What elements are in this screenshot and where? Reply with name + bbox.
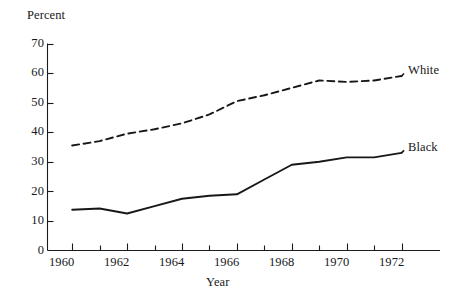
axes <box>48 44 441 251</box>
data-series <box>72 76 401 214</box>
leader-line-black <box>402 150 404 153</box>
series-path-black <box>72 153 401 214</box>
chart-screen: Percent 70 60 50 40 30 20 10 0 1960 1962… <box>0 0 457 299</box>
series-leader-lines <box>402 74 404 153</box>
series-path-white <box>72 76 401 145</box>
chart-plot-area <box>0 0 457 299</box>
y-axis-ticks <box>48 45 54 222</box>
leader-line-white <box>402 74 404 77</box>
x-axis-ticks <box>73 244 403 251</box>
